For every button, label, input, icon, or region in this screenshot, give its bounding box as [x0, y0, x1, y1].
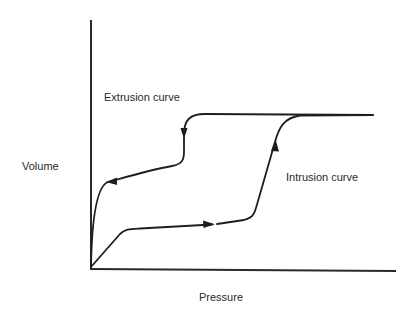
extrusion-arrow-down-icon: [181, 128, 188, 139]
x-axis-label: Pressure: [199, 291, 243, 304]
intrusion-curve-label: Intrusion curve: [286, 171, 358, 184]
pressure-volume-diagram: [0, 0, 417, 310]
intrusion-curve: [91, 115, 373, 267]
y-axis-label: Volume: [22, 160, 59, 173]
extrusion-curve: [91, 114, 373, 266]
intrusion-arrow-right-icon: [203, 221, 215, 229]
intrusion-arrow-up-icon: [271, 139, 279, 152]
extrusion-curve-label: Extrusion curve: [104, 91, 180, 104]
x-axis: [90, 269, 396, 271]
